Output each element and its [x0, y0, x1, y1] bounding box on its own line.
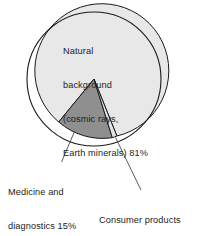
pie-label-natural-line-2: background: [63, 80, 148, 91]
pie-label-natural-line-3: (cosmic rays,: [63, 114, 148, 125]
pie-label-medicine-line-2: diagnostics 15%: [8, 221, 76, 232]
pie-label-consumer-line-1: Consumer products: [99, 215, 187, 226]
pie-label-natural-line-4: Earth minerals) 81%: [63, 148, 148, 159]
pie-label-natural-line-1: Natural: [63, 46, 148, 57]
pie-label-consumer-products: Consumer products (television sets, smok…: [99, 192, 187, 236]
pie-chart-figure: Natural background (cosmic rays, Earth m…: [0, 0, 202, 236]
pie-label-medicine-line-1: Medicine and: [8, 187, 76, 198]
pie-label-natural-background: Natural background (cosmic rays, Earth m…: [63, 23, 148, 183]
pie-label-medicine-and-diagnostics: Medicine and diagnostics 15%: [8, 164, 76, 236]
